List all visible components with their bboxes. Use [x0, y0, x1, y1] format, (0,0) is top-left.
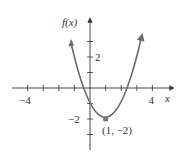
left-arrow-icon: [68, 39, 74, 47]
vertex-label: (1, −2): [102, 124, 132, 137]
y-tick-label-2: 2: [95, 51, 101, 63]
x-tick-label-4: 4: [149, 94, 155, 106]
x-tick-label-neg4: −4: [19, 94, 31, 106]
vertex-point: [103, 116, 108, 121]
parabola-curve: [71, 37, 141, 117]
parabola-chart: f(x) x −4 4 2 −2 (1, −2): [0, 0, 183, 156]
x-axis-label: x: [164, 92, 170, 104]
y-axis-label: f(x): [62, 16, 78, 29]
y-tick-label-neg2: −2: [68, 113, 80, 125]
